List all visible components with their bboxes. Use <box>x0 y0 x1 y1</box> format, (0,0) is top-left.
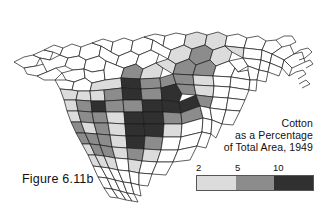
county-region <box>124 112 144 124</box>
legend-swatch-bar <box>196 175 314 191</box>
figure-root: Cotton as a Percentage of Total Area, 19… <box>0 0 321 217</box>
county-region <box>76 91 91 101</box>
county-region <box>126 136 145 149</box>
map-title-line3: of Total Area, 1949 <box>224 141 313 153</box>
county-region <box>193 75 214 86</box>
county-region <box>225 34 247 48</box>
county-region <box>90 90 105 101</box>
county-region <box>125 124 145 136</box>
county-region <box>91 101 106 112</box>
legend-tick-2: 2 <box>196 162 201 173</box>
coastline-path <box>299 80 310 88</box>
map-title: Cotton as a Percentage of Total Area, 19… <box>224 117 313 154</box>
map-legend: 2 5 10 <box>196 162 314 191</box>
county-region <box>202 118 212 134</box>
legend-swatch-high <box>274 176 313 190</box>
county-region <box>122 88 142 100</box>
county-region <box>139 173 152 186</box>
county-region <box>162 100 181 113</box>
county-region <box>142 100 163 112</box>
county-region <box>163 124 182 137</box>
county-region <box>213 86 230 98</box>
county-region <box>144 136 163 150</box>
county-region <box>257 70 268 82</box>
county-region <box>163 112 182 124</box>
county-region <box>249 80 257 91</box>
map-title-line2: as a Percentage <box>224 129 313 141</box>
county-region <box>226 98 245 111</box>
county-region <box>121 78 141 89</box>
county-region <box>123 100 143 112</box>
county-region <box>55 80 74 90</box>
legend-tick-5: 5 <box>235 162 240 173</box>
county-region <box>64 100 78 111</box>
county-region <box>106 112 125 124</box>
county-region <box>110 135 127 148</box>
legend-swatch-low <box>197 176 236 190</box>
county-region <box>76 100 92 112</box>
county-region <box>141 88 162 100</box>
county-region <box>140 78 161 89</box>
map-title-line1: Cotton <box>224 117 313 129</box>
county-region <box>144 124 164 137</box>
county-region <box>60 89 78 100</box>
legend-tick-10: 10 <box>273 162 284 173</box>
county-region <box>161 137 181 150</box>
coastline-path <box>289 70 306 79</box>
figure-label: Figure 6.11b <box>22 172 94 186</box>
county-region <box>105 100 124 112</box>
county-region <box>173 74 194 85</box>
legend-tick-labels: 2 5 10 <box>196 162 314 175</box>
county-region <box>92 112 108 123</box>
legend-swatch-mid <box>236 176 275 190</box>
coastline-path <box>305 60 313 68</box>
county-region <box>104 88 123 101</box>
county-region <box>108 123 126 136</box>
county-region <box>213 76 231 87</box>
county-region <box>143 112 164 124</box>
